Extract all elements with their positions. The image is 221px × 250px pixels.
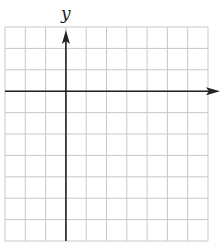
coordinate-plane: x y (0, 0, 221, 250)
grid-lines (5, 27, 208, 241)
y-axis-label: y (60, 3, 71, 23)
